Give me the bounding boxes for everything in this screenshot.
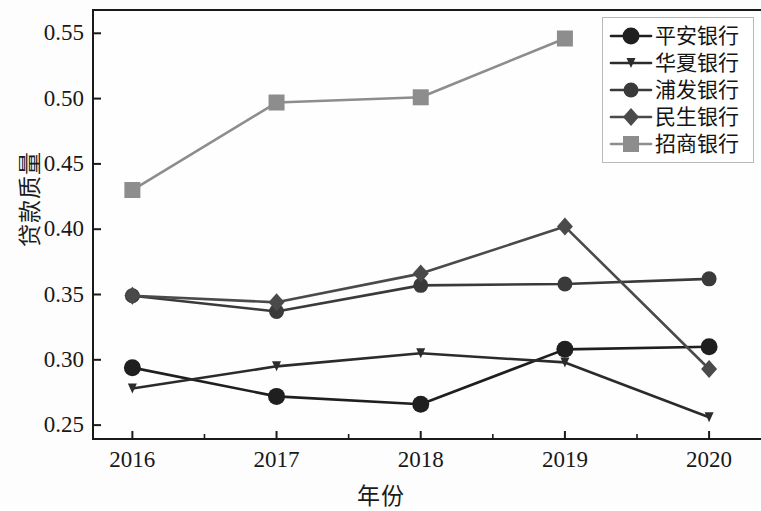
data-point-marker <box>623 136 639 152</box>
x-tick-label: 2017 <box>227 448 327 471</box>
data-point-marker <box>413 265 429 283</box>
data-point-marker <box>412 396 429 413</box>
data-point-marker <box>623 27 640 44</box>
y-tick-label: 0.50 <box>8 87 84 110</box>
data-point-marker <box>124 182 140 198</box>
data-point-marker <box>557 31 573 47</box>
legend-label: 浦发银行 <box>653 79 739 101</box>
legend-item-2[interactable]: 华夏银行 <box>609 49 747 76</box>
legend-label: 招商银行 <box>653 133 739 155</box>
data-point-marker <box>624 82 639 97</box>
legend-label: 民生银行 <box>653 106 739 128</box>
y-tick-label: 0.40 <box>8 217 84 240</box>
legend-marker-icon <box>609 52 653 74</box>
data-point-marker <box>124 359 141 376</box>
data-point-marker <box>413 89 429 105</box>
x-tick-label: 2016 <box>82 448 182 471</box>
data-point-marker <box>623 108 639 126</box>
series-5 <box>124 31 573 199</box>
legend[interactable]: 平安银行华夏银行浦发银行民生银行招商银行 <box>602 17 754 163</box>
data-point-marker <box>269 95 285 111</box>
data-point-marker <box>556 341 573 358</box>
x-tick-label: 2019 <box>515 448 615 471</box>
legend-marker-icon <box>609 133 653 155</box>
data-point-marker <box>702 271 717 286</box>
y-axis-tick-labels: 0.250.300.350.400.450.500.55 <box>0 0 84 506</box>
y-tick-label: 0.35 <box>8 283 84 306</box>
y-tick-label: 0.30 <box>8 348 84 371</box>
y-tick-label: 0.45 <box>8 152 84 175</box>
data-point-marker <box>557 277 572 292</box>
data-point-marker <box>124 287 140 305</box>
legend-item-1[interactable]: 平安银行 <box>609 22 747 49</box>
legend-marker-icon <box>609 25 653 47</box>
legend-item-5[interactable]: 招商银行 <box>609 130 747 157</box>
data-point-marker <box>701 338 718 355</box>
y-tick-label: 0.55 <box>8 21 84 44</box>
legend-label: 华夏银行 <box>653 52 739 74</box>
x-tick-label: 2018 <box>371 448 471 471</box>
x-tick-label: 2020 <box>659 448 759 471</box>
legend-label: 平安银行 <box>653 25 739 47</box>
x-axis-title: 年份 <box>0 477 761 511</box>
legend-item-4[interactable]: 民生银行 <box>609 103 747 130</box>
data-point-marker <box>268 388 285 405</box>
legend-item-3[interactable]: 浦发银行 <box>609 76 747 103</box>
legend-marker-icon <box>609 106 653 128</box>
y-tick-label: 0.25 <box>8 413 84 436</box>
legend-marker-icon <box>609 79 653 101</box>
